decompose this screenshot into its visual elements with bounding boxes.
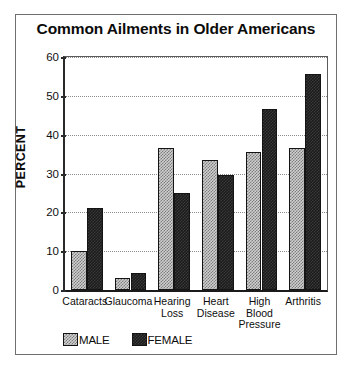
bar-group <box>289 57 321 290</box>
y-tick-mark-10 <box>61 251 66 253</box>
x-axis-label: Arthritis <box>275 296 331 308</box>
y-tick-mark-30 <box>61 174 66 176</box>
bar-male <box>71 251 87 290</box>
bar-female <box>174 193 190 290</box>
bar-male <box>202 160 218 290</box>
gridline-40 <box>65 135 327 136</box>
bar-group <box>158 57 190 290</box>
legend-swatch-female-icon <box>132 333 147 346</box>
y-tick-mark-20 <box>61 212 66 214</box>
bar-male <box>289 148 305 290</box>
y-tick-label-20: 20 <box>46 206 59 218</box>
gridline-50 <box>65 96 327 97</box>
bar-group <box>71 57 103 290</box>
gridline-20 <box>65 212 327 213</box>
bar-female <box>262 109 278 290</box>
chart-legend: MALE FEMALE <box>63 333 214 346</box>
chart-screenshot: Common Ailments in Older Americans PERCE… <box>0 0 349 373</box>
y-tick-label-10: 10 <box>46 245 59 257</box>
y-tick-label-30: 30 <box>46 168 59 180</box>
chart-title: Common Ailments in Older Americans <box>15 20 337 38</box>
bar-female <box>218 175 234 290</box>
gridline-10 <box>65 251 327 252</box>
y-tick-label-60: 60 <box>46 51 59 63</box>
x-axis-label-line: Arthritis <box>275 296 331 308</box>
bar-group <box>246 57 278 290</box>
bar-group <box>115 57 147 290</box>
bar-group <box>202 57 234 290</box>
gridline-60 <box>65 57 327 58</box>
y-tick-mark-0 <box>61 290 66 292</box>
legend-label-male: MALE <box>79 334 110 346</box>
bar-female <box>87 208 103 290</box>
bar-male <box>158 148 174 290</box>
legend-item-female: FEMALE <box>132 333 193 346</box>
bar-male <box>246 152 262 290</box>
y-tick-mark-60 <box>61 57 66 59</box>
plot-area: 0102030405060 <box>63 56 328 292</box>
bar-female <box>305 74 321 290</box>
legend-label-female: FEMALE <box>148 334 193 346</box>
y-tick-mark-50 <box>61 96 66 98</box>
gridline-30 <box>65 174 327 175</box>
bar-female <box>131 273 147 290</box>
y-tick-label-50: 50 <box>46 90 59 102</box>
y-tick-label-40: 40 <box>46 129 59 141</box>
y-axis-title: PERCENT <box>14 122 28 192</box>
y-tick-label-0: 0 <box>53 284 59 296</box>
bar-male <box>115 278 131 290</box>
x-axis-label-line: Pressure <box>232 319 288 331</box>
legend-item-male: MALE <box>63 333 110 346</box>
y-tick-mark-40 <box>61 135 66 137</box>
legend-swatch-male-icon <box>63 333 78 346</box>
plot-inner: 0102030405060 <box>65 57 327 290</box>
